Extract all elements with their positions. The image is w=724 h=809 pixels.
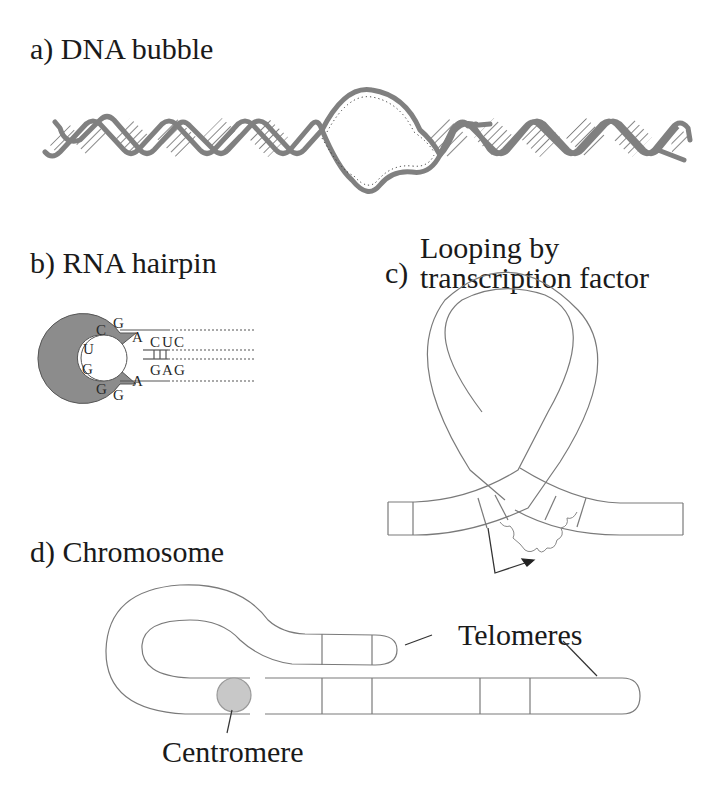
rna-base: C <box>96 322 106 338</box>
rna-base: A <box>162 362 173 378</box>
dna-looping-diagram <box>388 272 683 573</box>
rna-base: U <box>162 334 173 350</box>
rna-base: C <box>150 334 160 350</box>
rna-base: G <box>82 361 93 377</box>
rna-base: G <box>96 381 107 397</box>
rna-base: U <box>83 341 94 357</box>
rna-base: G <box>150 362 161 378</box>
rna-base: G <box>113 315 124 331</box>
rna-hairpin-diagram: U C G A G G G A C U C G A G <box>38 314 255 404</box>
transcription-factor-icon <box>500 512 577 552</box>
promoter-arrow <box>488 528 528 573</box>
chromosome-diagram <box>106 585 640 733</box>
rna-base: A <box>132 373 143 389</box>
rna-base: A <box>132 329 143 345</box>
rna-base: G <box>113 387 124 403</box>
rna-base: C <box>174 334 184 350</box>
rna-base: G <box>174 362 185 378</box>
dna-bubble-diagram <box>45 90 690 192</box>
centromere-icon <box>217 678 251 712</box>
rna-stem-bases: C U C G A G <box>150 334 185 378</box>
